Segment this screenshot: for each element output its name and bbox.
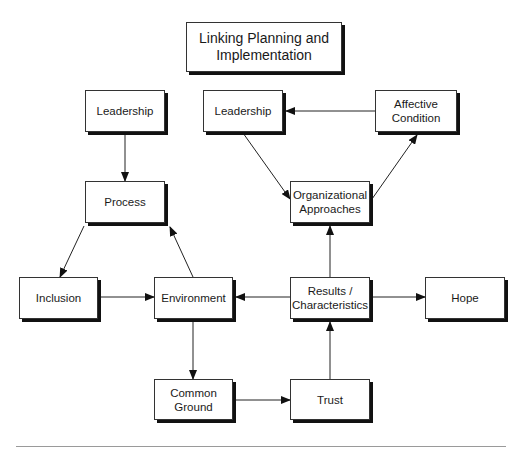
node-label: Common Ground [170,386,217,414]
node-results-characteristics: Results / Characteristics [290,277,370,319]
node-label: Trust [317,393,343,407]
node-affective-condition: Affective Condition [375,90,457,132]
node-label: Process [104,195,146,209]
node-common-ground: Common Ground [154,379,233,420]
node-leadership-left: Leadership [85,90,165,132]
bottom-divider [16,446,506,447]
node-inclusion: Inclusion [19,277,98,319]
node-hope: Hope [425,277,505,319]
diagram-title: Linking Planning and Implementation [186,22,342,72]
node-trust: Trust [290,379,370,420]
node-label: Results / Characteristics [292,284,368,312]
node-label: Organizational Approaches [293,188,367,216]
arrow-environment-to-process [170,227,193,277]
node-label: Inclusion [36,291,81,305]
node-label: Affective Condition [392,97,441,125]
node-label: Leadership [215,104,272,118]
arrow-org-approaches-to-affective [372,135,417,199]
node-label: Environment [161,291,226,305]
node-label: Leadership [97,104,154,118]
arrow-leadership-to-org-approaches [243,133,290,199]
node-label: Hope [451,291,479,305]
arrow-process-to-inclusion [60,226,84,277]
node-organizational-approaches: Organizational Approaches [290,181,370,223]
diagram-title-text: Linking Planning and Implementation [199,30,329,64]
node-environment: Environment [154,277,233,319]
diagram-canvas: Linking Planning and Implementation Lead… [0,0,528,454]
node-process: Process [85,181,165,223]
node-leadership-right: Leadership [203,90,283,132]
